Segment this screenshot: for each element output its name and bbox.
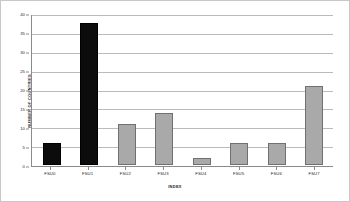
x-axis-tick-label: FSU0 [31,172,69,176]
x-tick-slot: FSU0 [31,167,69,181]
y-axis-tick-label: 0 [23,165,25,169]
x-axis-tick-label: FSU7 [295,172,333,176]
x-axis-tick-mark [201,167,202,170]
y-axis-tick-mark [26,15,29,16]
y-axis-tick-label: 10 [20,127,25,131]
bar-slot [108,15,146,165]
bar-fsu5 [230,143,248,166]
y-axis-tick-mark [26,167,29,168]
bar-slot [71,15,109,165]
bar-fsu7 [305,86,323,165]
y-axis-tick-label: 20 [20,89,25,93]
bar-slot [258,15,296,165]
y-axis-tick-mark [26,91,29,92]
y-axis-tick-label: 15 [20,108,25,112]
x-axis-tick-labels: FSU0FSU1FSU2FSU3FSU4FSU5FSU6FSU7 [31,167,333,181]
x-axis-tick-label: FSU2 [107,172,145,176]
bar-slot [146,15,184,165]
x-axis-tick-mark [314,167,315,170]
y-axis-tick-mark [26,72,29,73]
x-axis-tick-mark [276,167,277,170]
y-axis-tick-label: 35 [20,32,25,36]
x-axis-title: INDEX [1,184,349,189]
x-axis-tick-mark [125,167,126,170]
x-tick-slot: FSU3 [144,167,182,181]
x-tick-slot: FSU1 [69,167,107,181]
y-axis-tick-label: 30 [20,51,25,55]
bar-fsu3 [155,113,173,166]
bar-slot [183,15,221,165]
bar-fsu6 [268,143,286,166]
x-axis-tick-mark [239,167,240,170]
bar-fsu1 [80,23,98,166]
bar-fsu2 [118,124,136,165]
bar-slot [296,15,334,165]
y-axis-tick-labels: 0510152025303540 [1,15,29,167]
bar-fsu0 [43,143,61,166]
y-axis-tick-label: 5 [23,146,25,150]
y-axis-tick-label: 25 [20,70,25,74]
y-axis-tick-mark [26,53,29,54]
y-axis-tick-label: 40 [20,13,25,17]
bar-chart-figure: NUMBER OF COUNTRIES 0510152025303540 FSU… [0,0,350,202]
y-axis-tick-mark [26,129,29,130]
bar-slot [221,15,259,165]
x-axis-tick-mark [88,167,89,170]
x-tick-slot: FSU7 [295,167,333,181]
bar-fsu4 [193,158,211,166]
plot-area [31,15,333,167]
y-axis-tick-mark [26,110,29,111]
x-axis-tick-label: FSU1 [69,172,107,176]
y-axis-tick-mark [26,34,29,35]
x-axis-tick-label: FSU3 [144,172,182,176]
x-tick-slot: FSU5 [220,167,258,181]
x-axis-tick-mark [163,167,164,170]
x-axis-tick-label: FSU5 [220,172,258,176]
x-tick-slot: FSU6 [258,167,296,181]
x-axis-tick-label: FSU4 [182,172,220,176]
x-axis-tick-mark [50,167,51,170]
bar-series [33,15,333,165]
x-tick-slot: FSU4 [182,167,220,181]
x-tick-slot: FSU2 [107,167,145,181]
x-axis-tick-label: FSU6 [258,172,296,176]
y-axis-tick-mark [26,148,29,149]
bar-slot [33,15,71,165]
